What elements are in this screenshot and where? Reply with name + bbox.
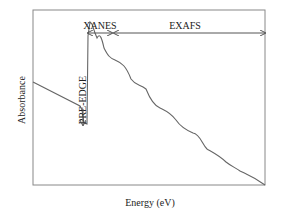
xas-diagram: XANES EXAFS PRE-EDGE Absorbance Energy (… [0, 0, 300, 215]
xanes-label: XANES [83, 20, 116, 31]
y-axis-label: Absorbance [16, 76, 27, 124]
plot-frame [33, 10, 265, 185]
exafs-label: EXAFS [169, 20, 201, 31]
absorbance-curve [33, 22, 265, 185]
x-axis-label: Energy (eV) [125, 197, 175, 209]
